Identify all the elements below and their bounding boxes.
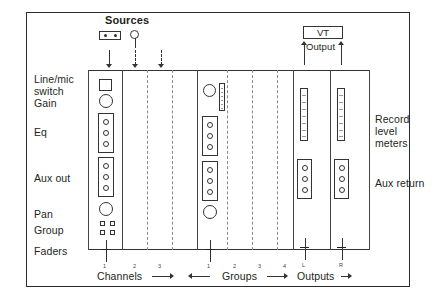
eq-knob-1[interactable]: [103, 119, 109, 125]
vt-output-label: Output: [306, 41, 335, 54]
strip-separator-ch-2: [147, 70, 148, 250]
group-number-1: 1: [207, 263, 210, 269]
aux-return-block-r[interactable]: [334, 159, 349, 199]
row-label-pan: Pan: [34, 208, 53, 221]
row-label-faders: Faders: [34, 245, 67, 258]
aux-return-knob-r-1[interactable]: [339, 165, 345, 171]
strip-separator-gr-2: [252, 70, 253, 250]
source-feed-arrowhead-3: [158, 64, 164, 68]
groups-lead-arrow-line: [192, 276, 210, 277]
group-button-4[interactable]: [110, 230, 115, 235]
strip-separator-out-left: [293, 70, 294, 250]
row-label-line-mic-2: switch: [34, 85, 64, 98]
sources-label: Sources: [105, 14, 149, 27]
strip-separator-gr-3: [277, 70, 278, 250]
pan-knob[interactable]: [99, 202, 113, 216]
group-eq-block[interactable]: [202, 116, 218, 156]
aux-return-knob-l-2[interactable]: [302, 176, 308, 182]
eq-knob-2[interactable]: [103, 130, 109, 136]
channels-arrow-line: [152, 276, 171, 277]
groups-arrow-head: [284, 273, 288, 279]
strip-separator-gr-left: [197, 70, 198, 250]
channel-number-3: 3: [158, 263, 161, 269]
group-button-3[interactable]: [100, 230, 105, 235]
vt-label: VT: [317, 27, 329, 38]
output-to-vt-arrowhead-2: [338, 41, 344, 45]
strip-separator-gr-1: [227, 70, 228, 250]
strip-separator-out-right: [369, 70, 370, 250]
strip-separator-ch-1: [122, 70, 123, 250]
section-label-groups: Groups: [222, 270, 257, 283]
section-label-outputs: Outputs: [297, 270, 334, 283]
aux-return-knob-l-3[interactable]: [302, 187, 308, 193]
channel-fader-1[interactable]: [101, 240, 110, 262]
channel-number-2: 2: [133, 263, 136, 269]
group-number-4: 4: [283, 263, 286, 269]
outputs-arrow-head: [348, 273, 352, 279]
group-aux-knob-3[interactable]: [207, 189, 213, 195]
section-label-channels: Channels: [97, 270, 142, 283]
aux-knob-3[interactable]: [103, 185, 109, 191]
group-meter: [219, 83, 225, 111]
right-label-record-3: meters: [375, 137, 408, 150]
tape-machine-icon: [99, 31, 121, 40]
eq-knob-3[interactable]: [103, 141, 109, 147]
strip-separator-ch-3: [172, 70, 173, 250]
gain-knob[interactable]: [99, 94, 113, 108]
group-aux-block[interactable]: [202, 161, 218, 201]
strip-separator-ch-left: [88, 70, 89, 250]
source-feed-line-3: [161, 50, 162, 65]
output-to-vt-line-1: [304, 44, 305, 65]
groups-arrow-line: [267, 276, 285, 277]
group-eq-knob-3[interactable]: [207, 144, 213, 150]
aux-return-knob-r-2[interactable]: [339, 176, 345, 182]
aux-out-block[interactable]: [98, 157, 114, 197]
console-body: [88, 70, 369, 250]
output-to-vt-arrowhead-1: [301, 41, 307, 45]
row-label-aux-out: Aux out: [34, 172, 70, 185]
group-aux-knob-2[interactable]: [207, 178, 213, 184]
group-fader-1[interactable]: [205, 240, 214, 262]
microphone-stem-icon: [135, 38, 136, 48]
row-label-eq: Eq: [34, 126, 47, 139]
aux-knob-1[interactable]: [103, 163, 109, 169]
record-level-meter-l: [300, 88, 308, 141]
group-gain-knob[interactable]: [203, 84, 216, 97]
aux-return-knob-r-3[interactable]: [339, 187, 345, 193]
diagram-canvas: Sources VT Output Line/mic switch Gain E…: [0, 0, 435, 304]
line-mic-switch-button[interactable]: [99, 79, 112, 91]
row-label-line-mic-1: Line/mic: [34, 73, 74, 86]
aux-return-block-l[interactable]: [297, 159, 312, 199]
aux-return-knob-l-1[interactable]: [302, 165, 308, 171]
right-label-record-2: level: [375, 125, 397, 138]
output-number-r: R: [339, 262, 343, 268]
group-aux-knob-1[interactable]: [207, 167, 213, 173]
output-to-vt-line-2: [341, 44, 342, 65]
source-feed-line-1: [109, 50, 110, 65]
group-number-3: 3: [258, 263, 261, 269]
strip-separator-out-1: [330, 70, 331, 250]
group-button-1[interactable]: [100, 221, 105, 226]
row-label-gain: Gain: [34, 97, 57, 110]
source-feed-line-2: [135, 50, 136, 65]
group-eq-knob-1[interactable]: [207, 122, 213, 128]
channels-arrow-head: [170, 273, 174, 279]
group-eq-knob-2[interactable]: [207, 133, 213, 139]
group-pan-knob[interactable]: [203, 205, 217, 219]
output-fader-l[interactable]: [300, 238, 309, 260]
right-label-record-1: Record: [375, 113, 409, 126]
aux-knob-2[interactable]: [103, 174, 109, 180]
output-number-l: L: [302, 262, 305, 268]
channel-number-1: 1: [103, 263, 106, 269]
source-feed-arrowhead-1: [106, 64, 112, 68]
vt-box: VT: [303, 26, 343, 39]
source-feed-arrowhead-2: [132, 64, 138, 68]
right-label-aux-return: Aux return: [375, 177, 424, 190]
output-fader-r[interactable]: [337, 238, 346, 260]
record-level-meter-r: [337, 88, 345, 141]
eq-block[interactable]: [98, 113, 114, 153]
row-label-group: Group: [34, 224, 64, 237]
group-button-2[interactable]: [110, 221, 115, 226]
group-number-2: 2: [233, 263, 236, 269]
